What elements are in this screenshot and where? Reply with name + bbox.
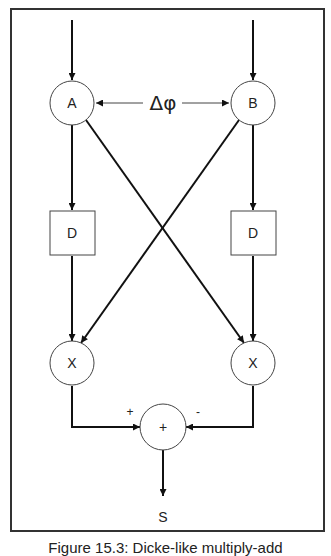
node-b: B [231,81,275,125]
node-a-label: A [67,95,77,111]
cross-arrow-a-to-right-mult [86,120,244,343]
figure-caption: Figure 15.3: Dicke-like multiply-add [0,539,331,556]
multiplier-left: X [50,341,94,385]
node-a: A [50,81,94,125]
summing-node-label: + [159,419,167,435]
delay-right: D [231,211,276,255]
phase-difference-label: Δφ [150,91,177,115]
cross-arrow-b-to-left-mult [81,120,239,343]
output-label: S [158,509,167,525]
node-b-label: B [248,95,257,111]
delay-left-label: D [67,225,77,241]
multiplier-right-label: X [248,355,258,371]
multiplier-right: X [231,341,275,385]
delay-right-label: D [248,225,258,241]
multiplier-left-label: X [67,355,77,371]
delay-left: D [50,211,95,255]
minus-sign-label: - [196,405,200,419]
summing-node: + [140,404,186,450]
plus-sign-label: + [126,405,133,419]
